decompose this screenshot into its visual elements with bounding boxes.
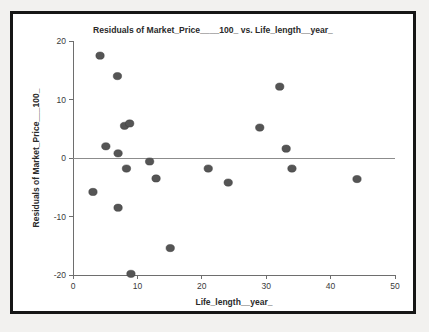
chart-svg: Residuals of Market_Price____100_ vs. Li… [13, 14, 413, 311]
data-point [145, 158, 153, 165]
y-tick-label: -10 [54, 212, 67, 222]
data-point [152, 175, 160, 182]
data-points-group [89, 52, 361, 277]
data-point [102, 143, 110, 150]
data-point [224, 179, 232, 186]
x-tick-label: 40 [326, 281, 336, 291]
screenshot-root: Residuals of Market_Price____100_ vs. Li… [0, 0, 429, 332]
chart-title: Residuals of Market_Price____100_ vs. Li… [93, 25, 333, 35]
data-point [353, 175, 361, 182]
data-point [114, 204, 122, 211]
y-axis-ticks: 20100-10-20 [54, 36, 73, 280]
scatter-plot: Residuals of Market_Price____100_ vs. Li… [13, 14, 413, 311]
x-tick-label: 0 [71, 281, 76, 291]
x-axis-ticks: 01020304050 [71, 275, 400, 291]
data-point [256, 124, 264, 131]
data-point [114, 150, 122, 157]
data-point [125, 120, 133, 127]
data-point [96, 52, 104, 59]
data-point [127, 270, 135, 277]
data-point [276, 83, 284, 90]
image-frame: Residuals of Market_Price____100_ vs. Li… [10, 11, 416, 314]
data-point [166, 244, 174, 251]
x-axis-title: Life_length__year_ [195, 297, 272, 307]
data-point [204, 165, 212, 172]
y-axis-title: Residuals of Market_Price___100_ [31, 88, 41, 227]
y-tick-label: 20 [57, 36, 67, 46]
y-tick-label: 0 [61, 153, 66, 163]
data-point [122, 165, 130, 172]
data-point [282, 145, 290, 152]
data-point [89, 188, 97, 195]
data-point [288, 165, 296, 172]
x-tick-label: 50 [390, 281, 400, 291]
x-tick-label: 10 [133, 281, 143, 291]
y-tick-label: -20 [54, 270, 67, 280]
data-point [113, 72, 121, 79]
x-tick-label: 20 [197, 281, 207, 291]
y-tick-label: 10 [57, 95, 67, 105]
x-tick-label: 30 [261, 281, 271, 291]
